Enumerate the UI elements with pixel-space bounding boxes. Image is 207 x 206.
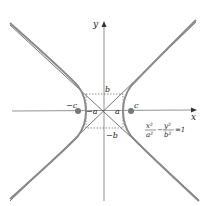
eq-num1: x² — [146, 122, 153, 130]
label-a-pos: a — [115, 107, 120, 116]
label-a-neg: −a — [86, 107, 98, 116]
eq-den2: b² — [164, 131, 171, 139]
y-axis-arrow-icon — [102, 21, 107, 27]
hyperbola-diagram: y x −c −a a c b −b x² a² − y² b² =1 — [0, 0, 207, 206]
label-c-neg: −c — [66, 101, 78, 110]
eq-den1: a² — [146, 131, 153, 139]
label-c-pos: c — [134, 101, 139, 110]
eq-rhs: =1 — [175, 126, 185, 134]
label-b-neg: −b — [106, 131, 118, 140]
y-axis-label: y — [92, 19, 99, 29]
label-b-pos: b — [105, 85, 110, 94]
eq-minus: − — [157, 126, 163, 134]
eq-num2: y² — [163, 122, 171, 130]
hyperbola-equation: x² a² − y² b² =1 — [145, 122, 185, 139]
x-axis-label: x — [191, 112, 196, 122]
